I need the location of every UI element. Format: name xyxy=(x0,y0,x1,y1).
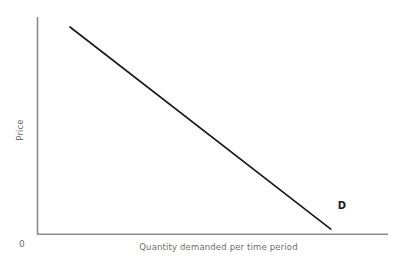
demand-curve-label: D xyxy=(338,201,346,211)
origin-label: 0 xyxy=(19,240,25,249)
demand-curve-line xyxy=(70,27,331,229)
demand-curve-plot xyxy=(0,0,413,268)
demand-curve-figure: Price Quantity demanded per time period … xyxy=(0,0,413,268)
y-axis-label: Price xyxy=(16,110,25,150)
x-axis-label: Quantity demanded per time period xyxy=(0,243,413,252)
